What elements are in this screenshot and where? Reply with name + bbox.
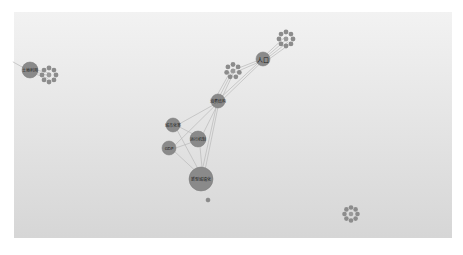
leaf-node[interactable] [237, 70, 242, 75]
leaf-node[interactable] [279, 32, 284, 37]
leaf-node[interactable] [228, 74, 233, 79]
node-label: 消费结构 [210, 98, 226, 104]
leaf-node[interactable] [349, 205, 354, 210]
node-cluster[interactable] [342, 205, 360, 223]
leaf-node[interactable] [289, 42, 294, 47]
leaf-node[interactable] [279, 42, 284, 47]
leaf-node[interactable] [353, 216, 358, 221]
leaf-node[interactable] [284, 44, 289, 49]
leaf-node[interactable] [231, 62, 236, 67]
leaf-node[interactable] [52, 78, 57, 83]
leaf-node[interactable] [344, 207, 349, 212]
leaf-node[interactable] [226, 65, 231, 70]
leaf-node[interactable] [42, 68, 47, 73]
node-label: 城市化率 [165, 122, 181, 128]
leaf-node[interactable] [47, 66, 52, 71]
leaf-node[interactable] [342, 212, 347, 217]
leaf-node[interactable] [40, 73, 45, 78]
leaf-node[interactable] [233, 74, 238, 79]
leaf-node[interactable] [349, 212, 354, 217]
leaf-node[interactable] [355, 212, 360, 217]
leaf-node[interactable] [349, 218, 354, 223]
leaf-node[interactable] [47, 80, 52, 85]
leaf-node[interactable] [291, 37, 296, 42]
graph-node[interactable]: 消费结构 [210, 94, 226, 108]
leaf-node[interactable] [289, 32, 294, 37]
leaf-node[interactable] [42, 78, 47, 83]
leaf-node[interactable] [277, 37, 282, 42]
graph-node[interactable]: 运行机制 [190, 131, 206, 147]
node-cluster[interactable] [40, 66, 59, 85]
node-label: 新型城镇化 [191, 176, 211, 182]
node-circle[interactable] [206, 198, 210, 202]
leaf-node[interactable] [47, 73, 52, 78]
leaf-node[interactable] [284, 37, 289, 42]
leaf-node[interactable] [231, 69, 236, 74]
node-label: 土地利用 [22, 67, 38, 73]
leaf-node[interactable] [344, 216, 349, 221]
network-graph[interactable]: 土地利用人口消费结构城市化率运行机制GDP新型城镇化 [0, 0, 463, 255]
leaf-node[interactable] [236, 65, 241, 70]
graph-node[interactable]: 人口 [256, 52, 270, 66]
node-cluster[interactable] [224, 62, 241, 79]
edge-layer [13, 37, 290, 179]
edge [218, 59, 263, 101]
graph-node[interactable]: 城市化率 [165, 118, 181, 132]
node-label: 运行机制 [190, 136, 206, 142]
leaf-node[interactable] [353, 207, 358, 212]
node-cluster[interactable] [277, 30, 296, 49]
cluster-layer [40, 30, 360, 223]
node-label: 人口 [257, 56, 269, 64]
graph-node[interactable] [206, 198, 210, 202]
graph-node[interactable]: GDP [162, 141, 176, 155]
graph-node[interactable]: 新型城镇化 [189, 167, 213, 191]
leaf-node[interactable] [52, 68, 57, 73]
graph-node[interactable]: 土地利用 [22, 62, 38, 78]
node-label: GDP [165, 146, 174, 151]
leaf-node[interactable] [284, 30, 289, 35]
leaf-node[interactable] [224, 70, 229, 75]
leaf-node[interactable] [54, 73, 59, 78]
